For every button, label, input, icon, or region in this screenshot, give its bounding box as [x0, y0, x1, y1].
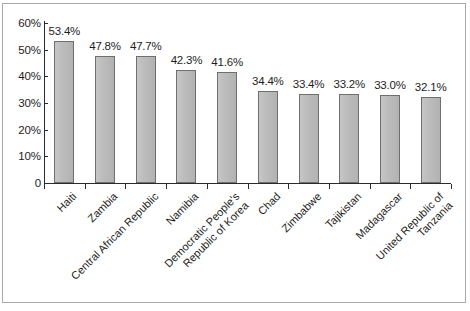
- bar: [176, 70, 196, 183]
- chart-page: 010%20%30%40%50%60% 53.4%47.8%47.7%42.3%…: [0, 0, 470, 311]
- x-tick-mark: [248, 184, 249, 189]
- x-tick-mark: [288, 184, 289, 189]
- x-axis-label: Democratic People'sRepublic of Korea: [162, 190, 251, 279]
- bar-value-label: 33.2%: [326, 78, 372, 90]
- bar: [217, 72, 237, 183]
- x-axis-label: Namibia: [164, 190, 202, 228]
- x-axis-label-line: Zimbabwe: [279, 190, 324, 235]
- x-tick-mark-origin: [44, 184, 45, 189]
- x-axis-label-line: Tajikistan: [323, 190, 364, 231]
- x-tick-mark: [451, 184, 452, 189]
- x-tick-mark: [207, 184, 208, 189]
- bar: [299, 94, 319, 183]
- y-tick-label: 20%: [18, 124, 41, 136]
- y-tick-label: 40%: [18, 70, 41, 82]
- bar: [54, 41, 74, 183]
- x-axis-label-line: Haiti: [55, 190, 80, 215]
- x-axis-label: Chad: [255, 190, 283, 218]
- x-axis-label-line: Democratic People's: [162, 190, 242, 270]
- bar-value-label: 32.1%: [408, 81, 454, 93]
- x-axis-label: Tajikistan: [323, 190, 364, 231]
- x-axis-label-line: Namibia: [164, 190, 202, 228]
- x-axis-label: Zambia: [85, 190, 120, 225]
- bar: [339, 94, 359, 183]
- y-tick-label: 50%: [18, 44, 41, 56]
- y-tick-label: 30%: [18, 97, 41, 109]
- bar: [380, 95, 400, 183]
- y-tick-label: 60%: [18, 17, 41, 29]
- x-tick-mark: [410, 184, 411, 189]
- x-tick-mark: [370, 184, 371, 189]
- bar-value-label: 33.0%: [367, 79, 413, 91]
- x-axis-label: Haiti: [55, 190, 80, 215]
- bar-value-label: 47.8%: [82, 40, 128, 52]
- bar-value-label: 34.4%: [245, 75, 291, 87]
- x-tick-mark: [166, 184, 167, 189]
- bar: [136, 56, 156, 183]
- x-axis-label-line: Zambia: [85, 190, 120, 225]
- y-tick-label: 10%: [18, 150, 41, 162]
- x-tick-mark: [125, 184, 126, 189]
- bar: [258, 91, 278, 183]
- x-axis-label-line: Chad: [255, 190, 283, 218]
- bar: [95, 56, 115, 183]
- bar-value-label: 53.4%: [41, 25, 87, 37]
- bar-value-label: 42.3%: [163, 54, 209, 66]
- x-axis-label: Zimbabwe: [279, 190, 324, 235]
- bar-value-label: 41.6%: [204, 56, 250, 68]
- x-tick-mark: [329, 184, 330, 189]
- bar-value-label: 33.4%: [286, 78, 332, 90]
- x-tick-mark: [85, 184, 86, 189]
- bar: [421, 97, 441, 183]
- bar-value-label: 47.7%: [123, 40, 169, 52]
- y-tick-label: 0: [35, 177, 41, 189]
